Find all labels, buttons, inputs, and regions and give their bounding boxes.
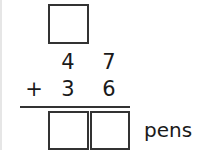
addend2-tens: 3 <box>57 79 79 100</box>
addend1-tens: 4 <box>57 52 79 73</box>
addend2-ones: 6 <box>98 79 120 100</box>
answer-tens-box[interactable] <box>48 111 89 150</box>
sum-line <box>20 106 130 108</box>
addend1-ones: 7 <box>98 52 120 73</box>
regroup-box[interactable] <box>48 4 89 44</box>
plus-sign: + <box>23 79 45 100</box>
unit-label: pens <box>144 120 192 140</box>
page-edge <box>0 0 2 150</box>
answer-ones-box[interactable] <box>90 111 130 150</box>
